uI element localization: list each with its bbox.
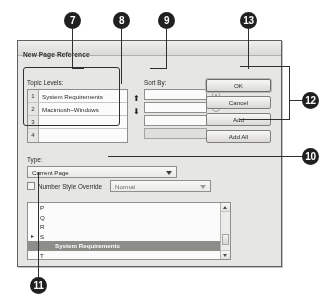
topic-levels-bracket (23, 67, 120, 126)
chevron-down-icon (166, 171, 172, 175)
list-item[interactable]: P (28, 203, 220, 213)
callout-10: 10 (302, 148, 319, 165)
callout-12: 12 (302, 92, 319, 109)
scrollbar-thumb[interactable] (222, 234, 229, 245)
number-style-override-label: Number Style Override (38, 183, 102, 190)
sort-input-3[interactable] (144, 115, 207, 126)
callout-7: 7 (64, 12, 81, 29)
topic-level-row-4[interactable]: 4 (28, 129, 127, 142)
chevron-down-icon-2 (200, 185, 206, 189)
list-item-label: P (40, 204, 44, 211)
list-item[interactable]: R (28, 222, 220, 232)
list-item-label: S (40, 233, 44, 240)
leader-line-11 (38, 172, 39, 278)
list-item-label: T (40, 252, 44, 259)
scroll-up-button[interactable] (221, 203, 230, 212)
leader-line-9 (166, 29, 167, 69)
callout-11: 11 (30, 277, 47, 294)
leader-line-7h (72, 68, 84, 69)
add-all-button[interactable]: Add All (206, 130, 271, 143)
leader-line-13 (248, 29, 249, 69)
topic-list-box[interactable]: P Q R ▸ S System Requirements (27, 202, 231, 260)
buttons-bracket (240, 66, 290, 120)
triangle-up-icon (223, 206, 227, 209)
number-style-override-row: Number Style Override Normal (27, 180, 227, 192)
leader-line-10 (108, 156, 303, 157)
scroll-down-button[interactable] (221, 250, 230, 259)
type-section: Type: Current Page (27, 156, 177, 178)
topic-level-number-4: 4 (28, 129, 39, 142)
leader-line-8 (121, 29, 122, 84)
list-item-label: Q (40, 214, 45, 221)
move-up-arrow-icon[interactable]: ⬆ (132, 92, 140, 105)
type-label: Type: (27, 156, 177, 163)
number-style-dropdown-value: Normal (115, 183, 135, 190)
list-scrollbar[interactable] (220, 203, 230, 259)
leader-line-7 (72, 29, 73, 69)
number-style-override-checkbox[interactable] (27, 182, 35, 190)
list-item-selected[interactable]: System Requirements (28, 241, 220, 251)
sort-order-arrows: ⬆ ⬇ (132, 92, 140, 118)
move-down-arrow-icon[interactable]: ⬇ (132, 105, 140, 118)
leader-line-12 (289, 100, 303, 101)
list-item[interactable]: ▸ S (28, 232, 220, 242)
expand-triangle-icon[interactable]: ▸ (31, 232, 34, 242)
list-item[interactable]: T (28, 251, 220, 260)
dialog-titlebar: New Page Reference (18, 41, 281, 56)
callout-9: 9 (158, 12, 175, 29)
type-dropdown[interactable]: Current Page (27, 166, 177, 178)
number-style-dropdown[interactable]: Normal (110, 180, 211, 192)
sort-input-4 (144, 128, 207, 139)
sort-input-1[interactable] (144, 89, 207, 100)
topic-list-inner: P Q R ▸ S System Requirements (28, 203, 220, 259)
list-item-label: R (40, 223, 44, 230)
callout-8: 8 (113, 12, 130, 29)
leader-line-9h (150, 68, 167, 69)
triangle-down-icon (223, 254, 227, 257)
sort-input-2[interactable] (144, 102, 207, 113)
list-item-label: System Requirements (55, 242, 120, 249)
list-item[interactable]: Q (28, 213, 220, 223)
scrollbar-track[interactable] (221, 212, 230, 250)
callout-13: 13 (240, 12, 257, 29)
